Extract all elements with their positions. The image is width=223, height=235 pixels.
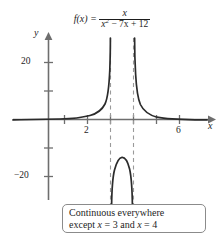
curve-branch-left <box>13 38 110 120</box>
caption-box: Continuous everywhere except x = 3 and x… <box>62 204 206 233</box>
x-tick-label-6: 6 <box>176 125 181 135</box>
caption-line-2-prefix: except <box>69 219 98 230</box>
x-tick-label-2: 2 <box>84 125 89 135</box>
figure-container: f(x) = x x2 − 7x + 12 <box>0 0 223 235</box>
curve-branch-middle <box>112 157 133 206</box>
caption-line-2-mid-2: = 4 <box>142 219 158 230</box>
y-axis-label: y <box>34 27 38 38</box>
caption-line-2-mid-1: = 3 and <box>102 219 137 230</box>
curve-branch-right <box>135 38 207 120</box>
y-tick-label-minus-20: −20 <box>14 170 29 180</box>
x-axis-label: x <box>208 120 212 131</box>
caption-line-1: Continuous everywhere <box>69 207 164 219</box>
y-axis <box>45 32 53 200</box>
vertical-asymptotes <box>111 38 134 206</box>
caption-line-2: except x = 3 and x = 4 <box>69 219 157 231</box>
y-tick-label-20: 20 <box>21 56 31 66</box>
